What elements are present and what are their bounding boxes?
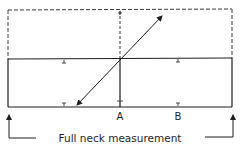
measurement-bracket-left xyxy=(9,115,36,138)
solid-rectangle xyxy=(8,58,232,107)
measurement-bracket-right xyxy=(205,115,233,137)
neck-measurement-diagram: A B Full neck measurement xyxy=(0,0,241,151)
label-point-a: A xyxy=(117,111,124,122)
measurement-caption: Full neck measurement xyxy=(59,132,182,144)
label-point-b: B xyxy=(175,111,182,122)
dashed-rectangle xyxy=(8,9,232,59)
